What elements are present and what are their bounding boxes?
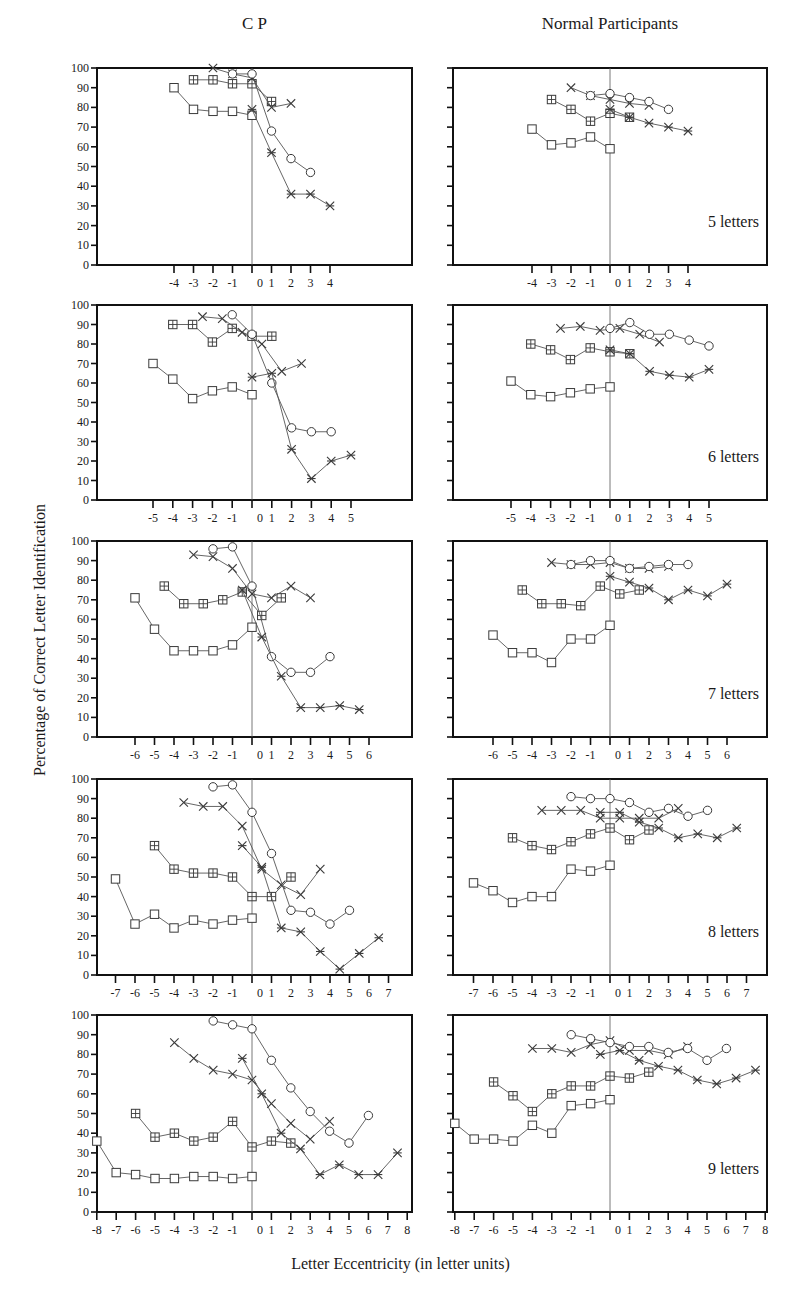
x-tick-label: 4 (685, 748, 691, 762)
word-length-label: 7 letters (708, 685, 759, 702)
x-tick-label: 2 (288, 276, 294, 290)
y-tick-label: 0 (83, 968, 89, 982)
x-tick-label: 2 (288, 986, 294, 1000)
y-tick-label: 30 (77, 909, 89, 923)
x-tick-label: 1 (626, 1223, 632, 1237)
x-tick-label: 3 (666, 276, 672, 290)
y-tick-label: 0 (83, 1205, 89, 1219)
series-markers-asterisk (606, 105, 692, 135)
y-tick-label: 20 (77, 219, 89, 233)
y-tick-label: 90 (77, 81, 89, 95)
y-tick-label: 40 (77, 652, 89, 666)
panel-normal-5-letters: -4-3-2-1012345 letters (447, 68, 767, 290)
x-tick-label: 1 (269, 986, 275, 1000)
x-tick-label: 0 (615, 1223, 621, 1237)
y-tick-label: 100 (71, 61, 89, 75)
series-markers-circle (228, 311, 335, 436)
x-tick-label: 2 (646, 276, 652, 290)
y-tick-label: 0 (83, 258, 89, 272)
x-tick-label: -2 (208, 1223, 218, 1237)
x-tick-label: 1 (269, 276, 275, 290)
x-tick-label: 6 (723, 1223, 729, 1237)
x-tick-label: -1 (228, 748, 238, 762)
series-markers-square-plus (518, 582, 643, 610)
x-tick-label: -6 (131, 1223, 141, 1237)
x-tick-label: 7 (743, 1223, 749, 1237)
x-tick-label: 6 (724, 986, 730, 1000)
x-tick-label: -1 (586, 748, 596, 762)
x-tick-label: 1 (627, 748, 633, 762)
series-line-asterisk (242, 590, 359, 710)
x-tick-label: -1 (228, 986, 238, 1000)
y-tick-label: 70 (77, 593, 89, 607)
y-tick-label: 10 (77, 474, 89, 488)
figure: C P Normal Participants Percentage of Co… (0, 0, 801, 1300)
x-tick-label: -6 (488, 986, 498, 1000)
y-tick-label: 60 (77, 850, 89, 864)
x-tick-label: 2 (647, 511, 653, 525)
panel-cp-7-letters: 0102030405060708090100-6-5-4-3-2-1012345… (71, 534, 412, 762)
x-tick-label: -4 (169, 1223, 179, 1237)
x-tick-label: 3 (665, 1223, 671, 1237)
series-markers-square-plus (160, 582, 285, 620)
x-tick-label: 4 (686, 511, 692, 525)
y-tick-label: 90 (77, 554, 89, 568)
y-tick-label: 80 (77, 573, 89, 587)
y-tick-label: 30 (77, 1146, 89, 1160)
word-length-label: 6 letters (708, 448, 759, 465)
y-tick-label: 10 (77, 948, 89, 962)
x-tick-label: 3 (666, 511, 672, 525)
x-tick-label: 7 (385, 1223, 391, 1237)
y-tick-label: 100 (71, 534, 89, 548)
x-tick-label: -2 (566, 986, 576, 1000)
x-tick-label: 4 (327, 986, 333, 1000)
y-tick-label: 70 (77, 1067, 89, 1081)
series-markers-asterisk (606, 346, 713, 382)
panel-cp-9-letters: 0102030405060708090100-8-7-6-5-4-3-2-101… (71, 1008, 412, 1237)
word-length-label: 9 letters (708, 1160, 759, 1177)
x-tick-label: 0 (257, 986, 263, 1000)
x-tick-label: -8 (92, 1223, 102, 1237)
x-tick-label: 5 (705, 748, 711, 762)
x-tick-label: 6 (724, 748, 730, 762)
y-tick-label: 100 (71, 1008, 89, 1022)
panel-normal-7-letters: -6-5-4-3-2-101234567 letters (447, 541, 767, 762)
x-tick-label: -3 (189, 748, 199, 762)
series-line-circle (233, 74, 311, 173)
y-tick-label: 50 (77, 160, 89, 174)
x-tick-label: -3 (547, 1223, 557, 1237)
x-tick-label: 2 (288, 1223, 294, 1237)
series-markers-square (111, 875, 256, 932)
series-line-asterisk (252, 373, 351, 478)
x-tick-label: 3 (308, 748, 314, 762)
y-tick-label: 100 (71, 772, 89, 786)
series-markers-square (451, 1096, 615, 1146)
x-tick-label: -2 (208, 986, 218, 1000)
x-tick-label: 3 (308, 986, 314, 1000)
x-tick-label: -4 (527, 1223, 537, 1237)
x-tick-label: 3 (666, 748, 672, 762)
y-tick-label: 80 (77, 100, 89, 114)
x-tick-label: -6 (130, 748, 140, 762)
x-tick-label: 4 (685, 986, 691, 1000)
x-tick-label: 3 (666, 986, 672, 1000)
x-tick-label: 6 (366, 986, 372, 1000)
x-tick-label: 4 (327, 276, 333, 290)
x-tick-label: -4 (169, 748, 179, 762)
series-markers-square (131, 594, 256, 655)
x-tick-label: 1 (627, 511, 633, 525)
x-tick-label: -2 (565, 511, 575, 525)
series-markers-asterisk (238, 841, 383, 973)
y-tick-label: 90 (77, 792, 89, 806)
x-tick-label: -5 (508, 986, 518, 1000)
x-tick-label: -7 (469, 1223, 479, 1237)
x-tick-label: 4 (327, 748, 333, 762)
y-tick-label: 40 (77, 890, 89, 904)
series-markers-square-plus (131, 1109, 295, 1151)
series-line-asterisk (610, 350, 709, 377)
y-tick-label: 80 (77, 337, 89, 351)
y-tick-label: 30 (77, 199, 89, 213)
y-tick-label: 20 (77, 454, 89, 468)
x-tick-label: 1 (627, 276, 633, 290)
y-tick-label: 30 (77, 671, 89, 685)
